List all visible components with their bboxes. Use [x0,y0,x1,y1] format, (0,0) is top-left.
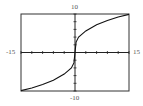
graph-window [0,0,143,106]
ymax-label: 10 [71,4,78,11]
xmax-label: 15 [133,49,140,56]
xmin-label: -15 [6,49,15,56]
ymin-label: -10 [70,95,79,102]
